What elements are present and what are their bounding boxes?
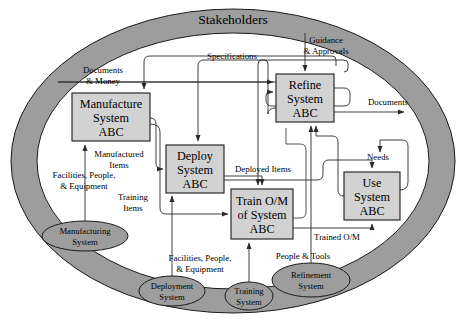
- process-box-label: Manufacture: [80, 97, 142, 111]
- flow-label-documents-out: Documents: [368, 97, 409, 107]
- enabling-system-label: System: [298, 281, 324, 291]
- process-box-label: System: [354, 190, 390, 204]
- flow-label-text: Facilities, People,: [53, 170, 116, 180]
- process-box-refine[interactable]: RefineSystemABC: [276, 74, 334, 122]
- process-box-label: Train O/M: [236, 194, 288, 208]
- flow-label-text: Needs: [367, 152, 390, 162]
- process-box-label: ABC: [249, 222, 274, 236]
- flow-label-text: Guidance: [309, 35, 343, 45]
- flow-label-people-tools: People & Tools: [276, 251, 331, 261]
- flow-label-specifications: Specifications: [207, 51, 257, 61]
- flow-label-text: & Equipment: [60, 181, 108, 191]
- flow-label-deployed-items: Deployed Items: [235, 164, 292, 174]
- process-box-label: Refine: [289, 78, 322, 92]
- flow-label-text: People & Tools: [276, 251, 331, 261]
- diagram-canvas: Stakeholders ManufactureSystemABCDeployS…: [0, 0, 466, 323]
- enabling-system-training-system[interactable]: TrainingSystem: [225, 282, 273, 310]
- enabling-system-label: Manufacturing: [59, 226, 111, 236]
- process-box-label: System: [287, 92, 323, 106]
- enabling-system-label: Training: [234, 286, 264, 296]
- flow-label-text: Documents: [368, 97, 409, 107]
- process-box-label: System: [93, 111, 129, 125]
- enabling-system-label: System: [72, 237, 98, 247]
- flow-label-trained-om: Trained O/M: [314, 232, 360, 242]
- process-box-deploy[interactable]: DeploySystemABC: [166, 145, 224, 193]
- stakeholders-ring: [0, 0, 466, 323]
- process-box-train[interactable]: Train O/Mof SystemABC: [231, 189, 293, 239]
- flow-label-text: & Equipment: [176, 264, 224, 274]
- process-box-label: Deploy: [177, 149, 214, 163]
- flow-label-text: Facilities, People,: [169, 253, 232, 263]
- flow-label-text: Items: [123, 203, 143, 213]
- flow-label-text: & Money: [86, 76, 121, 86]
- flow-label-documents-money: Documents& Money: [83, 65, 124, 86]
- flow-label-text: Deployed Items: [235, 164, 292, 174]
- flow-label-text: Manufactured: [94, 149, 144, 159]
- flow-label-text: Items: [109, 160, 129, 170]
- flow-label-text: Trained O/M: [314, 232, 360, 242]
- process-box-use[interactable]: UseSystemABC: [344, 172, 400, 220]
- process-box-manufacture[interactable]: ManufactureSystemABC: [72, 93, 150, 141]
- stakeholder-context-diagram: Stakeholders ManufactureSystemABCDeployS…: [0, 0, 466, 323]
- flow-label-text: Specifications: [207, 51, 257, 61]
- enabling-system-refinement-system[interactable]: RefinementSystem: [272, 263, 350, 297]
- flow-label-text: & Approvals: [303, 46, 349, 56]
- process-box-label: ABC: [292, 106, 317, 120]
- enabling-system-deployment-system[interactable]: DeploymentSystem: [139, 276, 205, 306]
- process-box-label: ABC: [182, 177, 207, 191]
- process-box-label: Use: [363, 176, 382, 190]
- enabling-system-label: System: [159, 292, 185, 302]
- flow-label-guidance-approvals: Guidance& Approvals: [303, 35, 349, 56]
- stakeholders-title: Stakeholders: [198, 12, 268, 27]
- enabling-system-label: Deployment: [151, 281, 194, 291]
- process-box-label: of System: [237, 208, 287, 222]
- flow-label-text: Training: [118, 192, 149, 202]
- flow-label-needs: Needs: [367, 152, 390, 162]
- flow-label-facilities-people-1: Facilities, People,& Equipment: [53, 170, 116, 191]
- flow-label-facilities-people-2: Facilities, People,& Equipment: [169, 253, 232, 274]
- process-box-label: ABC: [98, 125, 123, 139]
- flow-label-text: Documents: [83, 65, 124, 75]
- enabling-system-manufacturing-system[interactable]: ManufacturingSystem: [42, 221, 128, 251]
- process-box-label: ABC: [359, 204, 384, 218]
- enabling-system-label: System: [236, 297, 262, 307]
- process-box-label: System: [177, 163, 213, 177]
- enabling-system-label: Refinement: [291, 270, 332, 280]
